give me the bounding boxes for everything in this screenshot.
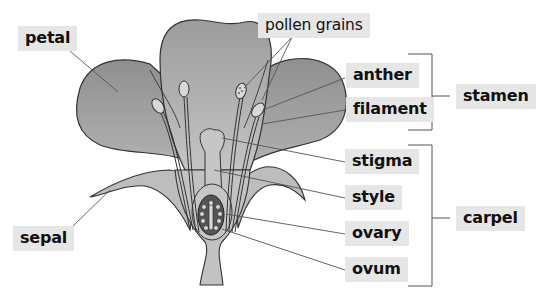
label-ovum: ovum xyxy=(345,257,408,282)
label-stigma: stigma xyxy=(345,149,419,174)
label-anther: anther xyxy=(346,63,419,88)
label-pollen-grains: pollen grains xyxy=(258,13,370,38)
label-ovary: ovary xyxy=(345,221,409,246)
label-petal: petal xyxy=(18,26,77,51)
label-sepal: sepal xyxy=(13,226,74,251)
label-style: style xyxy=(345,185,402,210)
label-carpel: carpel xyxy=(456,206,525,231)
label-filament: filament xyxy=(346,97,434,122)
flower-diagram xyxy=(0,0,539,299)
label-stamen: stamen xyxy=(456,84,536,109)
